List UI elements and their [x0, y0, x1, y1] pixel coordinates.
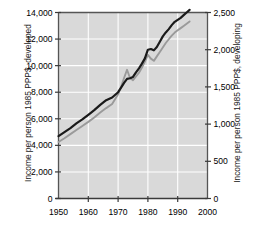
- plot-area: [0, 0, 267, 237]
- chart-container: Income per person 1985 PPP$, developed I…: [0, 0, 267, 237]
